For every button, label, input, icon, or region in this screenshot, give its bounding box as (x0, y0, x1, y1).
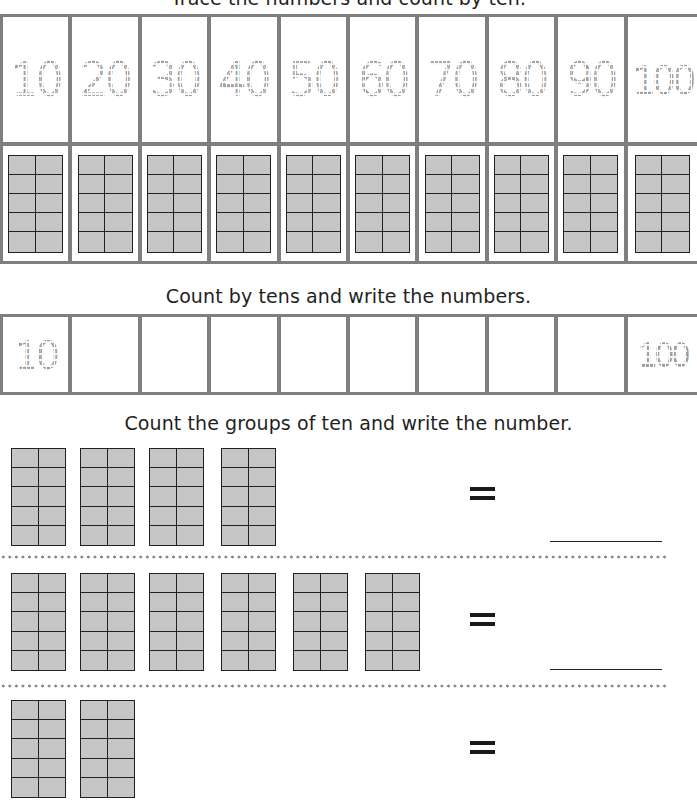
ten-frame (8, 155, 63, 253)
frame-cell (350, 146, 419, 261)
ten-frame (365, 573, 420, 671)
ten-frame-row (3, 146, 697, 261)
ten-frame (221, 448, 276, 546)
write-cell[interactable]: 10 (3, 317, 72, 392)
ten-frame (11, 573, 66, 671)
answer-line[interactable] (550, 541, 662, 542)
ten-frame (563, 155, 618, 253)
trace-cell[interactable]: 90 (558, 17, 627, 142)
ten-frame (425, 155, 480, 253)
trace-cell[interactable]: 40 (211, 17, 280, 142)
ten-frame (147, 155, 202, 253)
ten-frame (80, 700, 135, 798)
traceable-number: 90 (566, 54, 616, 105)
traceable-number: 50 (288, 54, 338, 105)
write-cell[interactable] (350, 317, 419, 392)
traceable-number: 100 (632, 58, 693, 102)
dotted-divider (0, 555, 667, 559)
frame-cell (211, 146, 280, 261)
write-cell[interactable] (489, 317, 558, 392)
frame-cell (142, 146, 211, 261)
frame-cell (3, 146, 72, 261)
trace-instruction: Trace the numbers and count by ten. (0, 0, 697, 9)
frame-cell (281, 146, 350, 261)
traceable-number: 20 (80, 54, 130, 105)
ten-frame (78, 155, 133, 253)
count-problem-3 (0, 700, 697, 802)
traceable-number: 10 (11, 54, 61, 105)
write-cell[interactable] (142, 317, 211, 392)
equals-sign (470, 487, 495, 501)
ten-frame-group (11, 573, 420, 671)
ten-frame (80, 573, 135, 671)
trace-cell[interactable]: 60 (350, 17, 419, 142)
ten-frame (286, 155, 341, 253)
ten-frame (149, 573, 204, 671)
ten-frame (293, 573, 348, 671)
count-problem-1 (0, 448, 697, 558)
trace-cell[interactable]: 70 (419, 17, 488, 142)
equals-sign (470, 613, 495, 627)
trace-cell[interactable]: 80 (489, 17, 558, 142)
frame-cell (558, 146, 627, 261)
write-cell[interactable] (211, 317, 280, 392)
equals-sign (470, 741, 495, 755)
count-problem-2 (0, 573, 697, 683)
traceable-number: 80 (496, 54, 546, 105)
trace-cell[interactable]: 10 (3, 17, 72, 142)
frame-cell (419, 146, 488, 261)
write-instruction: Count by tens and write the numbers. (0, 285, 697, 307)
traceable-number: 40 (219, 54, 269, 105)
traceable-number: 70 (427, 54, 477, 105)
traceable-number: 30 (149, 54, 199, 105)
ten-frame (494, 155, 549, 253)
traceable-number: 100 (638, 336, 687, 374)
trace-cell[interactable]: 100 (628, 17, 697, 142)
write-cell[interactable]: 100 (628, 317, 697, 392)
frame-cell (72, 146, 141, 261)
write-cell[interactable] (558, 317, 627, 392)
write-row: 10 100 (3, 317, 697, 392)
ten-frame (355, 155, 410, 253)
write-cell[interactable] (419, 317, 488, 392)
trace-cell[interactable]: 50 (281, 17, 350, 142)
write-cell[interactable] (281, 317, 350, 392)
count-instruction: Count the groups of ten and write the nu… (0, 412, 697, 434)
write-cell[interactable] (72, 317, 141, 392)
ten-frame (635, 155, 690, 253)
ten-frame-group (11, 448, 276, 546)
frame-cell (628, 146, 697, 261)
ten-frame (216, 155, 271, 253)
traceable-number: 10 (15, 333, 57, 377)
write-grid: 10 100 (0, 314, 697, 395)
trace-cell[interactable]: 30 (142, 17, 211, 142)
traceable-number: 60 (358, 54, 408, 105)
ten-frame (80, 448, 135, 546)
ten-frame (11, 700, 66, 798)
frame-cell (489, 146, 558, 261)
dotted-divider (0, 684, 667, 688)
ten-frame-group (11, 700, 135, 798)
trace-cell[interactable]: 20 (72, 17, 141, 142)
trace-grid: 10 20 30 40 50 60 70 80 90 100 (0, 14, 697, 264)
trace-number-row: 10 20 30 40 50 60 70 80 90 100 (3, 17, 697, 146)
ten-frame (149, 448, 204, 546)
ten-frame (221, 573, 276, 671)
ten-frame (11, 448, 66, 546)
answer-line[interactable] (550, 669, 662, 670)
